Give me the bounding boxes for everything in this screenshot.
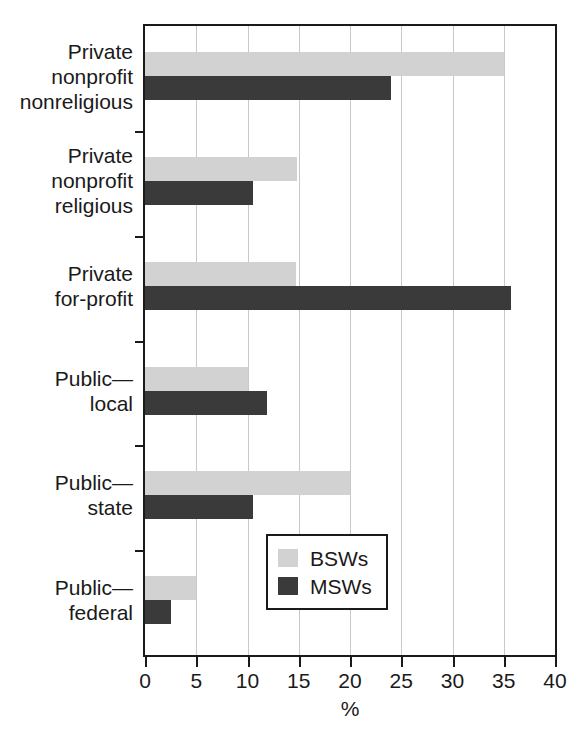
y-axis-label-line: Private <box>3 261 133 286</box>
y-axis-label-3: Public—local <box>3 366 133 416</box>
x-axis-tick <box>145 657 147 667</box>
category-band <box>145 26 555 131</box>
category-band <box>145 341 555 446</box>
x-axis-tick <box>196 657 198 667</box>
y-axis-label-line: nonprofit <box>3 168 133 193</box>
x-axis-tick-label: 30 <box>428 669 478 693</box>
x-axis-tick <box>555 657 557 667</box>
x-axis-ticks: 0510152025303540 <box>143 657 557 667</box>
bar-bsws-2 <box>145 262 296 286</box>
legend-label-bsws: BSWs <box>310 548 368 569</box>
x-axis-tick <box>299 657 301 667</box>
category-band <box>145 236 555 341</box>
bar-chart: PrivatenonprofitnonreligiousPrivatenonpr… <box>0 0 582 736</box>
y-axis-label-line: for-profit <box>3 286 133 311</box>
y-axis-label-4: Public—state <box>3 470 133 520</box>
y-axis-label-line: Private <box>3 143 133 168</box>
y-axis-label-line: Public— <box>3 575 133 600</box>
bar-msws-1 <box>145 181 253 205</box>
bar-msws-2 <box>145 286 511 310</box>
x-axis-tick <box>453 657 455 667</box>
y-axis-label-5: Public—federal <box>3 575 133 625</box>
y-axis-label-line: state <box>3 495 133 520</box>
bar-msws-5 <box>145 600 171 624</box>
x-axis-tick <box>401 657 403 667</box>
y-axis-tick <box>135 445 145 447</box>
legend-entry-msws: MSWs <box>278 572 372 600</box>
x-axis-tick-label: 25 <box>376 669 426 693</box>
x-axis-tick-label: 5 <box>171 669 221 693</box>
legend-label-msws: MSWs <box>310 576 372 597</box>
legend-swatch-bsws <box>278 549 298 567</box>
category-band <box>145 131 555 236</box>
legend-entry-bsws: BSWs <box>278 544 372 572</box>
x-axis-tick-label: 35 <box>479 669 529 693</box>
bar-bsws-4 <box>145 471 350 495</box>
bar-msws-4 <box>145 495 253 519</box>
bar-bsws-5 <box>145 576 196 600</box>
y-axis-tick <box>135 236 145 238</box>
y-axis-label-line: religious <box>3 193 133 218</box>
x-axis-tick-label: 15 <box>274 669 324 693</box>
x-axis-tick <box>504 657 506 667</box>
legend: BSWs MSWs <box>266 534 388 610</box>
y-axis-label-1: Privatenonprofitreligious <box>3 143 133 218</box>
y-axis-tick <box>135 341 145 343</box>
y-axis-label-line: Public— <box>3 470 133 495</box>
y-axis-label-0: Privatenonprofitnonreligious <box>3 39 133 114</box>
y-axis-label-line: Public— <box>3 366 133 391</box>
x-axis-tick <box>248 657 250 667</box>
x-axis-tick-label: 0 <box>120 669 170 693</box>
y-axis-label-2: Privatefor-profit <box>3 261 133 311</box>
x-axis-tick-label: 20 <box>325 669 375 693</box>
bar-msws-3 <box>145 391 267 415</box>
y-axis-label-line: nonreligious <box>3 89 133 114</box>
legend-swatch-msws <box>278 577 298 595</box>
bar-bsws-1 <box>145 157 297 181</box>
x-axis-tick-label: 40 <box>530 669 580 693</box>
x-axis-title: % <box>143 697 557 721</box>
x-axis-tick-label: 10 <box>223 669 273 693</box>
bar-bsws-3 <box>145 367 248 391</box>
y-axis-tick <box>135 550 145 552</box>
y-axis-tick <box>135 131 145 133</box>
x-axis-tick <box>350 657 352 667</box>
bar-msws-0 <box>145 76 391 100</box>
y-axis-label-line: local <box>3 391 133 416</box>
y-axis-label-line: nonprofit <box>3 64 133 89</box>
bar-bsws-0 <box>145 52 504 76</box>
y-axis-label-line: federal <box>3 600 133 625</box>
y-axis-label-line: Private <box>3 39 133 64</box>
